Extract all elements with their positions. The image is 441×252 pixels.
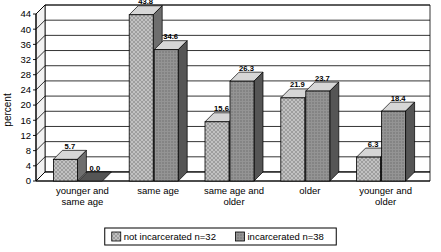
y-tick-label: 8 [26,145,31,156]
bar-value-label: 5.7 [65,142,76,151]
y-tick-label: 28 [20,69,31,80]
legend-label: incarcerated n=38 [248,231,324,242]
x-category-label: same age [137,185,179,196]
bar [382,102,415,181]
bar-value-label: 15.6 [214,104,229,113]
y-tick-label: 4 [26,160,31,171]
chart-legend: not incarcerated n=32incarcerated n=38 [105,228,337,245]
y-tick-label: 0 [26,175,31,186]
x-category-label: same age [62,196,104,207]
x-category-label: younger and [359,185,412,196]
y-tick-label: 32 [20,54,31,65]
bar-value-label: 18.4 [391,94,407,103]
x-category-label: older [375,196,396,207]
bar-value-label: 34.6 [163,32,178,41]
x-category-label: older [299,185,320,196]
bar-value-label: 23.7 [315,74,330,83]
bar-chart: 048121620242832364044 5.70.043.834.615.6… [0,0,441,252]
chart-canvas: 048121620242832364044 5.70.043.834.615.6… [0,0,441,252]
bar [53,150,86,181]
legend-swatch [112,232,121,241]
y-tick-label: 24 [20,84,31,95]
x-category-label: younger and [56,185,109,196]
legend-label: not incarcerated n=32 [124,231,216,242]
y-tick-label: 44 [20,8,31,19]
x-category-label: same age and [204,185,264,196]
bar-value-label: 43.8 [138,0,153,6]
bar-value-label: 0.0 [90,164,101,173]
bar [154,41,187,181]
bar-value-label: 26.3 [239,64,254,73]
bar-value-label: 6.3 [368,140,379,149]
bar [230,72,263,181]
bar [306,82,339,181]
legend-item: incarcerated n=38 [236,231,324,242]
y-tick-label: 40 [20,24,31,35]
y-axis-title: percent [2,93,13,127]
legend-item: not incarcerated n=32 [112,231,216,242]
legend-swatch [236,232,245,241]
y-tick-label: 36 [20,39,31,50]
y-tick-label: 20 [20,99,31,110]
y-tick-label: 12 [20,130,31,141]
y-tick-label: 16 [20,115,31,126]
bar-value-label: 21.9 [290,80,305,89]
x-category-label: older [223,196,244,207]
